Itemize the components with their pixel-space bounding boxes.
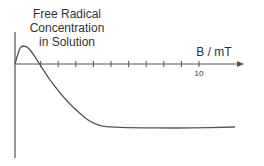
y-axis-label-line-2: Concentration [30, 21, 105, 35]
x-tick-label: 10 [195, 69, 204, 78]
y-axis-label-line-3: in Solution [39, 35, 95, 49]
chart: 10 Free Radical Concentration in Solutio… [0, 0, 264, 166]
x-axis-label: B / mT [196, 45, 232, 59]
x-axis-arrowhead [237, 61, 244, 67]
y-axis-label-line-1: Free Radical [33, 7, 101, 21]
